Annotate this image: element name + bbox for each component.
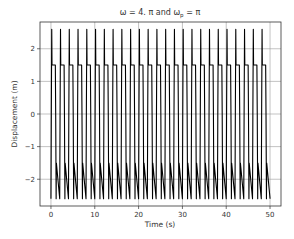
chart-title: ω = 4. π and ωp = π [120,8,201,19]
y-tick-label: 2 [31,45,35,53]
y-tick-label: −1 [25,143,35,151]
x-tick-label: 30 [178,211,187,219]
y-tick-label: −2 [25,176,35,184]
x-tick-label: 50 [266,211,275,219]
y-tick-label: 1 [31,78,35,86]
x-axis-label: Time (s) [144,220,176,229]
x-axis-ticks: 01020304050 [49,206,275,219]
y-tick-label: 0 [31,111,35,119]
displacement-chart: ω = 4. π and ωp = π 01020304050 210−1−2 … [0,0,294,239]
y-axis-label: Displacement (m) [10,80,19,147]
x-tick-label: 10 [90,211,99,219]
y-axis-ticks: 210−1−2 [25,45,40,183]
x-tick-label: 0 [49,211,53,219]
x-tick-label: 20 [134,211,143,219]
x-tick-label: 40 [222,211,231,219]
